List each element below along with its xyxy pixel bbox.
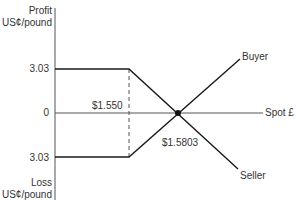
buyer-payoff-line xyxy=(55,59,240,157)
x-axis-label: Spot £ xyxy=(265,107,294,118)
y-axis-top-label-1: Profit xyxy=(0,5,52,16)
y-axis-top-label-2: US¢/pound xyxy=(0,17,52,28)
breakeven-label: $1.5803 xyxy=(162,137,198,148)
y-tick-top: 3.03 xyxy=(0,63,49,74)
y-tick-bottom: 3.03 xyxy=(0,152,49,163)
y-axis-bottom-label-1: Loss xyxy=(0,177,52,188)
y-axis-bottom-label-2: US¢/pound xyxy=(0,189,52,200)
breakeven-point xyxy=(175,110,181,116)
seller-payoff-line xyxy=(55,69,238,169)
strike-label: $1.550 xyxy=(92,100,123,111)
y-tick-zero: 0 xyxy=(0,107,49,118)
seller-label: Seller xyxy=(240,170,266,181)
buyer-label: Buyer xyxy=(242,51,268,62)
